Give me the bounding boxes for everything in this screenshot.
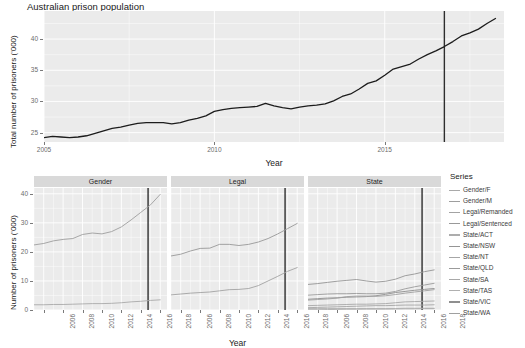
legend-item-label: State/SA: [463, 276, 489, 283]
legend-item-label: Legal/Remanded: [463, 208, 513, 215]
legend-line-icon: [449, 229, 460, 239]
legend-item[interactable]: State/QLD: [449, 262, 525, 273]
top-chart-x-tick-mark: [385, 142, 386, 145]
facet-panel-gender: [34, 188, 167, 310]
facet-chart-x-tick-label: 2010: [245, 314, 252, 336]
legend-item[interactable]: State/NSW: [449, 240, 525, 251]
facet-chart-x-tick-mark: [278, 310, 279, 313]
facet-chart-y-axis-title: Number of prisoners ('000): [9, 215, 18, 310]
facet-gender-plot-area: [34, 188, 167, 310]
legend-item[interactable]: State/NT: [449, 251, 525, 262]
top-chart-y-tick-label: 30: [14, 97, 38, 104]
facet-chart-x-tick-label: 2012: [264, 314, 271, 336]
facet-chart-x-tick-mark: [376, 310, 377, 313]
legend-item-label: Gender/M: [463, 197, 492, 204]
legend-line-icon: [449, 296, 460, 306]
facet-panel-legal: [171, 188, 304, 310]
facet-chart-y-tick-label: 0: [6, 306, 28, 313]
top-chart-y-tick-mark: [40, 133, 43, 134]
legend-line-icon: [449, 252, 460, 262]
top-chart-x-tick-mark: [214, 142, 215, 145]
facet-chart-y-tick-label: 20: [6, 248, 28, 255]
facet-chart-x-tick-label: 2016: [440, 314, 447, 336]
legend-item[interactable]: State/WA: [449, 307, 525, 318]
facet-chart-x-tick-mark: [83, 310, 84, 313]
top-chart-x-tick-label: 2005: [34, 146, 54, 153]
facet-chart-x-tick-label: 2018: [185, 314, 192, 336]
facet-chart-x-tick-label: 2014: [420, 314, 427, 336]
facet-chart-x-tick-label: 2008: [88, 314, 95, 336]
facet-chart-x-tick-label: 2012: [127, 314, 134, 336]
legend-item-label: State/NT: [463, 253, 489, 260]
top-chart-panel: [44, 11, 504, 142]
facet-panel-state: [308, 188, 441, 310]
legend-title: Series: [450, 172, 525, 181]
facet-chart-x-tick-mark: [102, 310, 103, 313]
top-chart-x-axis-title: Year: [44, 158, 504, 168]
legend-item[interactable]: State/VIC: [449, 296, 525, 307]
facet-chart-x-tick-label: 2010: [108, 314, 115, 336]
legend-line-icon: [449, 241, 460, 251]
legend: Series Gender/FGender/MLegal/RemandedLeg…: [449, 172, 525, 318]
facet-legal-plot-area: [171, 188, 304, 310]
legend-line-icon: [449, 185, 460, 195]
top-chart-y-tick-label: 40: [14, 35, 38, 42]
top-chart-y-tick-label: 25: [14, 129, 38, 136]
facet-chart-x-tick-label: 2006: [206, 314, 213, 336]
chart-figure: Australian prison population Total numbe…: [0, 0, 525, 348]
facet-chart-x-tick-label: 2018: [322, 314, 329, 336]
legend-item-label: State/WA: [463, 309, 490, 316]
legend-item-label: State/ACT: [463, 231, 493, 238]
facet-chart-x-tick-mark: [357, 310, 358, 313]
legend-item[interactable]: Legal/Remanded: [449, 206, 525, 217]
legend-line-icon: [449, 207, 460, 217]
legend-line-icon: [449, 285, 460, 295]
legend-item[interactable]: Gender/M: [449, 195, 525, 206]
facet-chart-x-tick-mark: [44, 310, 45, 313]
facet-chart-x-tick-mark: [318, 310, 319, 313]
top-chart-y-tick-mark: [40, 70, 43, 71]
facet-chart-x-tick-mark: [258, 310, 259, 313]
facet-chart-x-tick-label: 2012: [401, 314, 408, 336]
legend-item[interactable]: Gender/F: [449, 184, 525, 195]
legend-item-label: Gender/F: [463, 186, 490, 193]
legend-item[interactable]: State/TAS: [449, 285, 525, 296]
facet-strip-legal: Legal: [171, 176, 304, 187]
legend-item-label: State/NSW: [463, 242, 495, 249]
facet-chart-x-tick-label: 2006: [69, 314, 76, 336]
facet-chart-y-tick-label: 30: [6, 219, 28, 226]
facet-chart-x-tick-label: 2008: [225, 314, 232, 336]
top-chart-y-tick-mark: [40, 39, 43, 40]
facet-chart-x-tick-mark: [181, 310, 182, 313]
top-chart-x-tick-mark: [44, 142, 45, 145]
facet-chart-x-tick-mark: [220, 310, 221, 313]
facet-chart-x-tick-mark: [415, 310, 416, 313]
facet-chart-x-tick-label: 2016: [166, 314, 173, 336]
legend-item-list: Gender/FGender/MLegal/RemandedLegal/Sent…: [449, 184, 525, 318]
facet-chart-x-tick-mark: [239, 310, 240, 313]
facet-chart-x-tick-mark: [160, 310, 161, 313]
facet-chart-y-tick-mark: [30, 252, 33, 253]
facet-chart-y-tick-label: 10: [6, 277, 28, 284]
legend-item-label: State/TAS: [463, 287, 492, 294]
facet-chart-x-axis-title: Year: [34, 338, 441, 348]
facet-chart-x-tick-label: 2014: [146, 314, 153, 336]
legend-item[interactable]: State/SA: [449, 274, 525, 285]
facet-chart-x-tick-mark: [395, 310, 396, 313]
facet-chart-x-tick-label: 2008: [362, 314, 369, 336]
facet-chart-x-tick-label: 2016: [303, 314, 310, 336]
legend-line-icon: [449, 308, 460, 318]
facet-strip-state: State: [308, 176, 441, 187]
legend-line-icon: [449, 196, 460, 206]
top-chart-y-tick-mark: [40, 101, 43, 102]
legend-item[interactable]: State/ACT: [449, 229, 525, 240]
top-chart-plot-area: [44, 11, 504, 142]
legend-item[interactable]: Legal/Sentenced: [449, 218, 525, 229]
legend-line-icon: [449, 218, 460, 228]
facet-chart-x-tick-label: 2014: [283, 314, 290, 336]
facet-strip-gender: Gender: [34, 176, 167, 187]
legend-item-label: Legal/Sentenced: [463, 220, 512, 227]
facet-chart-x-tick-label: 2006: [343, 314, 350, 336]
facet-chart-x-tick-mark: [200, 310, 201, 313]
top-chart-x-tick-label: 2015: [375, 146, 395, 153]
